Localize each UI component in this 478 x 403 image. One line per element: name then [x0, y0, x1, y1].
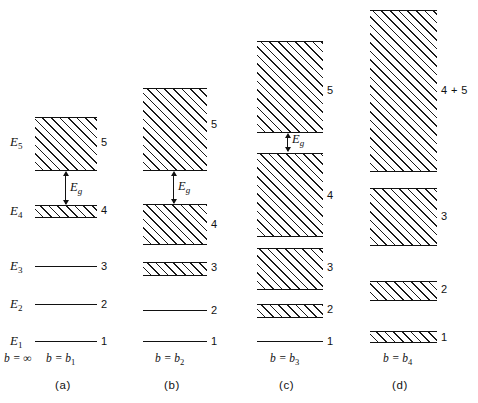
panel-c-label: (c) — [279, 379, 294, 391]
panel-a-label: (a) — [55, 379, 71, 391]
panel-a-level-1 — [35, 341, 97, 342]
panel-b-band-5-number: 5 — [211, 118, 218, 130]
panel-a-level-3-number: 3 — [101, 260, 108, 272]
panel-b-gap-arrowhead-up — [171, 171, 177, 176]
panel-c-gap-label: Eg — [292, 132, 304, 147]
panel-b-band-4-number: 4 — [211, 218, 218, 230]
panel-a-level-2 — [35, 304, 97, 305]
panel-a-level-2-number: 2 — [101, 298, 108, 310]
panel-b-level-2 — [143, 310, 207, 311]
panel-a-gap-label: Eg — [70, 180, 82, 195]
panel-a-spacing-label: b = b1 — [46, 352, 75, 364]
energy-label-E2: E2 — [10, 296, 22, 312]
panel-d-band-1 — [370, 331, 437, 343]
panel-c-gap-arrowhead-up — [285, 133, 291, 138]
panel-a-gap-arrowhead-up — [63, 171, 69, 176]
panel-a-band-5 — [35, 117, 97, 171]
energy-label-E5: E5 — [10, 134, 22, 150]
panel-c-level-1-number: 1 — [327, 335, 334, 347]
panel-b-level-1-number: 1 — [211, 335, 218, 347]
energy-label-E1: E1 — [10, 333, 22, 349]
panel-c-gap-arrowhead-down — [285, 147, 291, 152]
panel-d-spacing-label: b = b4 — [383, 352, 412, 364]
panel-c-band-4 — [257, 153, 323, 237]
panel-d-band-4-plus-5 — [370, 10, 437, 172]
panel-a-level-3 — [35, 266, 97, 267]
panel-c-band-5 — [257, 41, 323, 133]
panel-a-band-5-number: 5 — [101, 136, 108, 148]
panel-d-band-4-plus-5-number: 4 + 5 — [441, 84, 468, 96]
panel-b-band-3 — [143, 262, 207, 276]
panel-d-band-3-number: 3 — [441, 210, 448, 222]
panel-b-spacing-label: b = b2 — [155, 352, 184, 364]
panel-d-band-2-number: 2 — [441, 283, 448, 295]
panel-a-level-1-number: 1 — [101, 335, 108, 347]
panel-c-spacing-label: b = b3 — [270, 352, 299, 364]
panel-c-band-3 — [257, 248, 323, 290]
panel-b-band-4 — [143, 204, 207, 245]
energy-label-E3: E3 — [10, 258, 22, 274]
panel-c-band-2-number: 2 — [327, 303, 334, 315]
panel-d-band-3 — [370, 188, 437, 246]
panel-b-gap-arrowhead-down — [171, 199, 177, 204]
panel-d-label: (d) — [392, 379, 408, 391]
panel-a-infinity-axis: b = ∞ — [4, 352, 31, 364]
panel-c-band-2 — [257, 304, 323, 318]
panel-b-gap-label: Eg — [178, 179, 190, 194]
band-formation-figure: E5 E4 E3 E2 E1 5 4 Eg 3 2 1 b = ∞ b = b1… — [0, 0, 478, 403]
panel-a-gap-arrowhead-down — [63, 200, 69, 205]
panel-b-level-1 — [143, 341, 207, 342]
panel-d-band-2 — [370, 281, 437, 301]
panel-c-band-5-number: 5 — [327, 84, 334, 96]
energy-label-E4: E4 — [10, 203, 22, 219]
panel-b-level-2-number: 2 — [211, 304, 218, 316]
panel-b-label: (b) — [164, 379, 180, 391]
panel-b-band-5 — [143, 88, 207, 171]
panel-b-band-3-number: 3 — [211, 261, 218, 273]
panel-a-band-4 — [35, 205, 97, 218]
panel-d-band-1-number: 1 — [441, 331, 448, 343]
panel-c-level-1 — [257, 341, 323, 342]
panel-c-band-3-number: 3 — [327, 261, 334, 273]
panel-c-band-4-number: 4 — [327, 189, 334, 201]
panel-a-band-4-number: 4 — [101, 204, 108, 216]
